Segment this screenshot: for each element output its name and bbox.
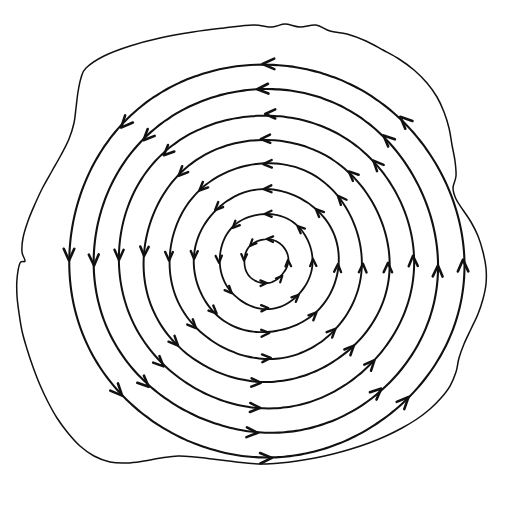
- figure-root: Rotational vector field on an irregular …: [0, 0, 521, 506]
- vector-field-figure: Rotational vector field on an irregular …: [0, 0, 521, 506]
